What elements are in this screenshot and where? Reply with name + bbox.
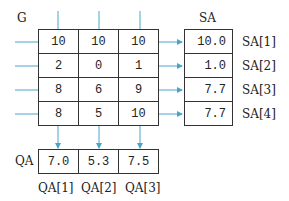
g-cell: 8 (38, 101, 79, 126)
sa-cell: 7.7 (184, 77, 233, 102)
sa-index-label: SA[1] (242, 35, 276, 49)
label-sa: SA (199, 11, 216, 25)
sa-index-label: SA[3] (242, 83, 276, 97)
sa-cell: 10.0 (184, 29, 233, 54)
qa-index-label: QA[3] (125, 181, 161, 195)
sa-cell: 1.0 (184, 53, 233, 78)
qa-cell: 7.0 (38, 149, 79, 174)
qa-index-label: QA[2] (81, 181, 117, 195)
g-cell: 5 (78, 101, 119, 126)
qa-index-label: QA[1] (38, 181, 74, 195)
g-cell: 0 (78, 53, 119, 78)
sa-cell: 7.7 (184, 101, 233, 126)
label-g: G (17, 11, 27, 25)
sa-index-label: SA[2] (242, 59, 276, 73)
qa-cell: 5.3 (78, 149, 119, 174)
g-cell: 6 (78, 77, 119, 102)
g-cell: 2 (38, 53, 79, 78)
g-cell: 10 (78, 29, 119, 54)
qa-cell: 7.5 (118, 149, 159, 174)
g-cell: 9 (118, 77, 159, 102)
sa-index-label: SA[4] (242, 107, 276, 121)
label-qa: QA (15, 154, 34, 168)
g-cell: 10 (38, 29, 79, 54)
g-cell: 8 (38, 77, 79, 102)
g-cell: 1 (118, 53, 159, 78)
g-cell: 10 (118, 101, 159, 126)
g-cell: 10 (118, 29, 159, 54)
